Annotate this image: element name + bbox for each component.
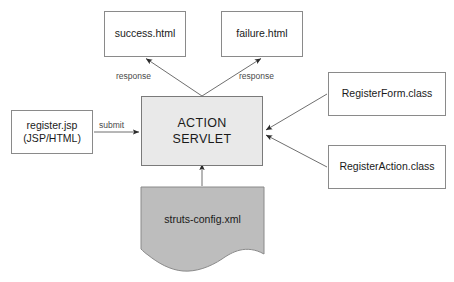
node-register-jsp-label: register.jsp (JSP/HTML) (23, 119, 81, 146)
edge-register-action (266, 135, 327, 167)
node-failure-html-label: failure.html (236, 27, 287, 40)
edge-label-response-failure: response (239, 71, 274, 81)
edge-response-success (146, 59, 202, 97)
diagram-canvas: success.html failure.html register.jsp (… (0, 0, 454, 282)
edge-label-submit: submit (99, 120, 124, 130)
node-action-servlet-label: ACTION SERVLET (173, 115, 232, 147)
edge-register-form (266, 94, 327, 130)
node-action-servlet[interactable]: ACTION SERVLET (141, 96, 263, 166)
edge-label-response-success: response (116, 71, 151, 81)
node-register-action-class-label: RegisterAction.class (339, 160, 434, 173)
node-struts-config-xml-label: struts-config.xml (164, 213, 240, 225)
node-register-form-class-label: RegisterForm.class (342, 87, 432, 100)
node-register-form-class[interactable]: RegisterForm.class (328, 72, 446, 116)
node-success-html-label: success.html (115, 27, 176, 40)
node-success-html[interactable]: success.html (104, 11, 186, 57)
node-failure-html[interactable]: failure.html (221, 11, 303, 57)
node-register-action-class[interactable]: RegisterAction.class (328, 145, 446, 189)
node-struts-config-xml[interactable]: struts-config.xml (140, 208, 265, 230)
node-register-jsp[interactable]: register.jsp (JSP/HTML) (11, 110, 93, 154)
